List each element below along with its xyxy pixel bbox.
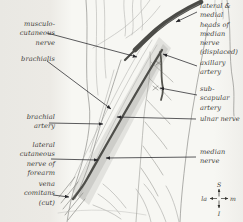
leader-axillary-artery xyxy=(163,54,197,66)
label-subscapular-artery: sub- scapular artery xyxy=(200,85,229,113)
label-vena-comitans: vena comitans (cut) xyxy=(24,180,55,208)
leader-brachialis xyxy=(47,61,111,109)
compass-inferior-label: I xyxy=(218,210,220,217)
compass-lateral-label: la xyxy=(201,195,207,202)
leader-brachial-artery xyxy=(49,123,103,124)
label-lateral-cutaneous-nerve-of-forearm: lateral cutaneous nerve of forearm xyxy=(20,141,55,178)
label-brachial-artery: brachial artery xyxy=(27,113,55,132)
label-axillary-artery: axillary artery xyxy=(200,59,226,78)
label-musculocutaneous-nerve: musculo- cutaneous nerve xyxy=(20,20,55,48)
compass-superior-label: S xyxy=(217,181,221,188)
orientation-compass-cross xyxy=(210,189,228,208)
leader-median-nerve xyxy=(106,157,196,158)
figure-page: musculo- cutaneous nerve brachialis brac… xyxy=(0,0,243,222)
label-ulnar-nerve: ulnar nerve xyxy=(200,115,240,124)
label-median-nerve: median nerve xyxy=(200,148,225,167)
label-brachialis: brachialis xyxy=(21,55,55,64)
compass-medial-label: m xyxy=(230,195,236,202)
label-median-nerve-heads: lateral & medial heads of median nerve (… xyxy=(200,2,238,58)
leader-musculocutaneous-nerve xyxy=(47,33,137,57)
